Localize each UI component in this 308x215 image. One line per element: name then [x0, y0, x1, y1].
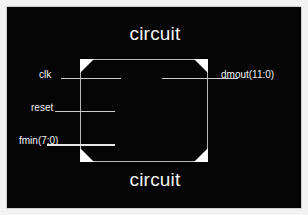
port-wire-reset: [55, 111, 115, 112]
corner-marker-top-left-icon: [80, 59, 94, 73]
corner-marker-bottom-left-icon: [80, 148, 94, 162]
block-title-top: circuit: [7, 23, 302, 45]
port-label-fmin: fmin(7:0): [19, 135, 58, 147]
port-wire-clk: [61, 78, 121, 79]
block-title-bottom: circuit: [7, 169, 302, 191]
corner-marker-bottom-right-icon: [194, 148, 208, 162]
port-label-dmout: dmout(11:0): [221, 69, 274, 81]
corner-marker-top-right-icon: [194, 59, 208, 73]
circuit-symbol-figure: circuit clk reset fmin(7:0) dmout(11:0) …: [0, 0, 308, 215]
port-label-clk: clk: [39, 69, 51, 81]
diagram-canvas: circuit clk reset fmin(7:0) dmout(11:0) …: [6, 6, 302, 209]
port-label-reset: reset: [31, 102, 53, 114]
